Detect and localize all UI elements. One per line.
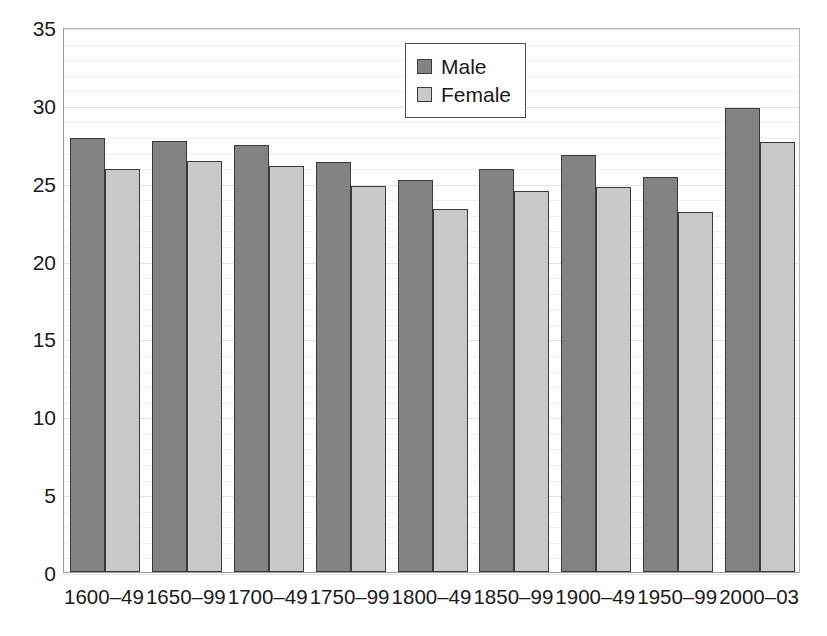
x-tick-label: 1650–99 [146,585,226,609]
bar-male [725,108,760,572]
bar-group [152,29,222,572]
bar-female [187,161,222,572]
x-tick-label: 1700–49 [228,585,308,609]
male-swatch-icon [417,59,432,74]
legend-label-male: Male [441,56,487,77]
y-tick-label: 35 [2,18,56,39]
bar-male [561,155,596,572]
bar-male [479,169,514,572]
bar-female [433,209,468,572]
bar-group [316,29,386,572]
y-tick-label: 10 [2,407,56,428]
bar-female [269,166,304,572]
y-tick-label: 30 [2,95,56,116]
y-tick-label: 15 [2,329,56,350]
x-tick-label: 1800–49 [392,585,472,609]
bar-female [105,169,140,572]
female-swatch-icon [417,87,432,102]
y-tick-label: 25 [2,173,56,194]
bar-male [398,180,433,572]
legend-label-female: Female [441,84,511,105]
bar-group [643,29,713,572]
x-tick-label: 1750–99 [310,585,390,609]
bar-male [316,162,351,572]
bar-female [596,187,631,572]
legend-item-female: Female [417,80,511,108]
x-tick-label: 1950–99 [637,585,717,609]
bar-group [70,29,140,572]
y-tick-label: 20 [2,251,56,272]
legend: Male Female [405,43,526,118]
x-tick-label: 1600–49 [64,585,144,609]
bar-male [643,177,678,573]
x-tick-label: 1850–99 [473,585,553,609]
bar-chart: 05101520253035 1600–491650–991700–491750… [0,0,827,636]
x-tick-label: 2000–03 [719,585,799,609]
y-tick-label: 0 [2,563,56,584]
bar-female [514,191,549,573]
bar-female [351,186,386,572]
bar-group [561,29,631,572]
x-axis: 1600–491650–991700–491750–991800–491850–… [63,585,800,625]
bar-male [234,145,269,572]
bar-male [152,141,187,572]
y-tick-label: 5 [2,485,56,506]
bar-group [234,29,304,572]
legend-item-male: Male [417,52,511,80]
bar-female [760,142,795,572]
gridline-major [64,574,799,575]
bar-male [70,138,105,572]
bar-female [678,212,713,572]
y-axis: 05101520253035 [0,0,56,636]
x-tick-label: 1900–49 [555,585,635,609]
bar-group [725,29,795,572]
